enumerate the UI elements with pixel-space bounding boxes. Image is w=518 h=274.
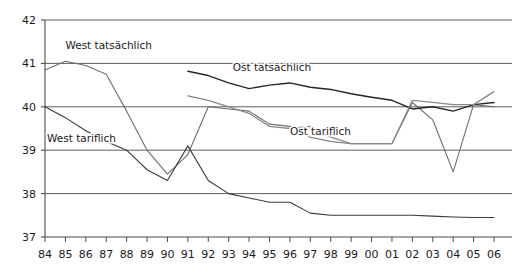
x-tick-label-00: 00	[365, 248, 379, 261]
x-tick-label-05: 05	[467, 248, 481, 261]
line-chart: 373839404142 848586878889909192939495969…	[0, 0, 518, 274]
x-tick-label-04: 04	[446, 248, 460, 261]
y-tick-label-38: 38	[22, 188, 36, 201]
x-tick-label-88: 88	[120, 248, 134, 261]
x-tick-label-85: 85	[58, 248, 72, 261]
x-axis-tick-labels: 8485868788899091929394959697989900010203…	[38, 248, 501, 261]
x-tick-label-93: 93	[222, 248, 236, 261]
x-tick-label-86: 86	[79, 248, 93, 261]
x-tick-label-97: 97	[303, 248, 317, 261]
x-tick-label-89: 89	[140, 248, 154, 261]
x-tick-label-90: 90	[160, 248, 174, 261]
x-tick-label-84: 84	[38, 248, 52, 261]
x-tick-label-92: 92	[201, 248, 215, 261]
x-tick-label-03: 03	[426, 248, 440, 261]
y-tick-label-42: 42	[22, 14, 36, 27]
annotation-0: West tatsächlichWest tatsächlich	[65, 39, 151, 51]
x-tick-label-06: 06	[487, 248, 501, 261]
x-tick-label-01: 01	[385, 248, 399, 261]
y-tick-label-39: 39	[22, 144, 36, 157]
annotation-text: Ost tatsächlich	[233, 61, 311, 73]
x-tick-label-95: 95	[263, 248, 277, 261]
y-tick-label-40: 40	[22, 101, 36, 114]
x-tick-label-91: 91	[181, 248, 195, 261]
annotation-text: West tariflich	[47, 132, 116, 144]
annotation-text: Ost tariflich	[290, 125, 351, 137]
annotation-3: Ost tariflichOst tariflich	[290, 125, 351, 137]
chart-container: 373839404142 848586878889909192939495969…	[0, 0, 518, 274]
x-tick-label-87: 87	[99, 248, 113, 261]
x-tick-label-96: 96	[283, 248, 297, 261]
annotation-1: West tariflichWest tariflich	[47, 132, 116, 144]
x-tick-label-02: 02	[405, 248, 419, 261]
annotation-text: West tatsächlich	[65, 39, 151, 51]
x-tick-label-94: 94	[242, 248, 256, 261]
x-tick-label-98: 98	[324, 248, 338, 261]
y-tick-label-41: 41	[22, 57, 36, 70]
x-tick-label-99: 99	[344, 248, 358, 261]
annotation-2: Ost tatsächlichOst tatsächlich	[233, 61, 311, 73]
y-tick-label-37: 37	[22, 231, 36, 244]
